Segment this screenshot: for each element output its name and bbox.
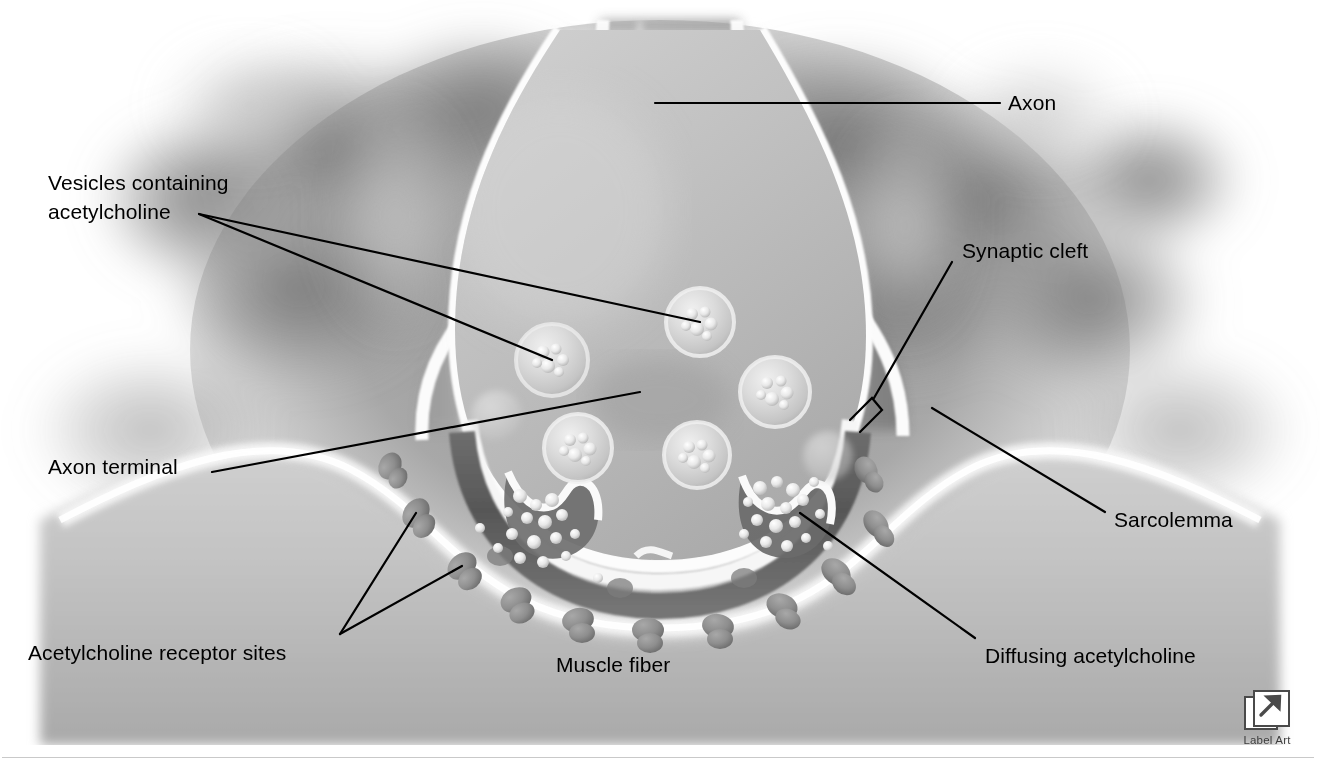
receptor-site xyxy=(607,578,633,598)
label-art-logo[interactable]: Label Art xyxy=(1236,690,1298,752)
vesicle xyxy=(544,414,612,482)
illustration-field xyxy=(0,0,1320,745)
footer-rule xyxy=(2,757,1314,758)
stacked-squares-arrow-icon xyxy=(1244,690,1290,732)
arrow-up-right-icon xyxy=(1253,690,1286,723)
receptor-site xyxy=(731,568,757,588)
label-sarcolemma: Sarcolemma xyxy=(1114,505,1233,534)
label-acetylcholine-receptor-sites: Acetylcholine receptor sites xyxy=(28,638,286,667)
label-synaptic-cleft: Synaptic cleft xyxy=(962,236,1088,265)
vesicle xyxy=(803,431,853,481)
vesicle xyxy=(664,422,730,488)
vesicle xyxy=(740,357,810,427)
label-diffusing-acetylcholine: Diffusing acetylcholine xyxy=(985,641,1196,670)
label-axon: Axon xyxy=(1008,88,1056,117)
label-muscle-fiber: Muscle fiber xyxy=(556,650,670,679)
label-vesicles-containing-acetylcholine: Vesicles containing acetylcholine xyxy=(48,168,229,226)
label-art-caption: Label Art xyxy=(1236,734,1298,746)
label-axon-terminal: Axon terminal xyxy=(48,452,178,481)
